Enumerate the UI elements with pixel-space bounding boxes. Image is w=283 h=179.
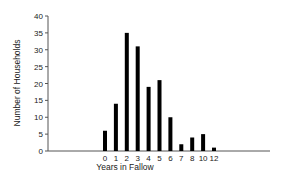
y-tick-label: 35: [34, 29, 43, 38]
bar: [168, 117, 172, 151]
x-axis-title: Years in Fallow: [96, 162, 154, 172]
y-tick-label: 10: [34, 113, 43, 122]
x-tick-label: 5: [157, 154, 162, 163]
y-tick-label: 20: [34, 80, 43, 89]
bar: [212, 148, 216, 151]
x-tick-label: 10: [199, 154, 208, 163]
bar-chart: 0510152025303540 0123456781012 Number of…: [0, 0, 283, 179]
x-tick-label: 12: [210, 154, 219, 163]
y-axis-title: Number of Households: [12, 40, 22, 127]
y-tick-label: 25: [34, 63, 43, 72]
bar: [147, 87, 151, 151]
bar: [190, 138, 194, 152]
y-tick-label: 15: [34, 96, 43, 105]
x-tick-label: 6: [168, 154, 173, 163]
x-tick-label: 7: [179, 154, 184, 163]
y-axis: 0510152025303540: [34, 12, 48, 156]
bar: [158, 80, 162, 151]
bar: [114, 104, 118, 151]
x-axis: 0123456781012: [48, 151, 270, 163]
bar: [179, 144, 183, 151]
bar: [136, 46, 140, 151]
y-tick-label: 0: [39, 147, 44, 156]
y-tick-label: 5: [39, 130, 44, 139]
y-tick-label: 40: [34, 12, 43, 21]
bars: [103, 33, 216, 151]
bar: [125, 33, 129, 151]
y-tick-label: 30: [34, 46, 43, 55]
bar: [201, 134, 205, 151]
x-tick-label: 8: [190, 154, 195, 163]
bar: [103, 131, 107, 151]
